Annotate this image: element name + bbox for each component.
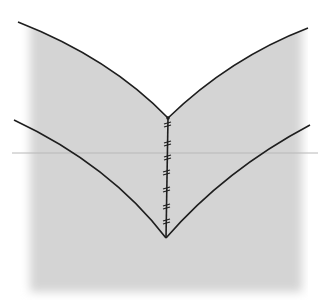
seam-top-knot [166,116,170,120]
diagram-canvas [0,0,324,307]
seam-diagram [0,0,324,307]
